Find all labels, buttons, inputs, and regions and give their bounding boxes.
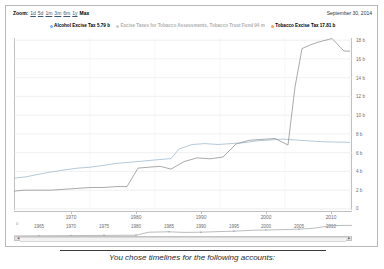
range-button-5d[interactable]: 5d [38, 10, 44, 16]
legend-item-tobacco-trust-fund[interactable]: Excise Taxes for Tobacco Assessments, To… [116, 22, 265, 30]
y-tick-label: 0 [356, 206, 359, 211]
chart-container: Zoom:1d5d1m3m6m1yMax September 30, 2014 … [5, 5, 378, 247]
legend-label: Alcohol Excise Tax 5.79 b [54, 23, 110, 28]
navigator-scrollbar[interactable]: ◀ ▶ [14, 236, 352, 241]
scrollbar-right-arrow-icon[interactable]: ▶ [346, 237, 351, 240]
y-tick-label: 16 b [356, 57, 365, 62]
plot-area [14, 38, 352, 210]
chart-legend: Alcohol Excise Tax 5.79 b Excise Taxes f… [6, 22, 379, 32]
y-tick-label: 12 b [356, 94, 365, 99]
x-tick-label: 1980 [131, 215, 142, 221]
range-button-6m[interactable]: 6m [63, 10, 70, 16]
x-tick [201, 211, 202, 214]
x-tick-label: 2000 [261, 215, 272, 221]
series-canvas [14, 38, 352, 210]
x-tick-label: 1990 [196, 215, 207, 221]
x-axis-line [14, 211, 352, 212]
y-tick-label: 2 b [356, 188, 362, 193]
x-tick-label: 2010 [326, 215, 337, 221]
legend-label: Excise Taxes for Tobacco Assessments, To… [120, 23, 264, 28]
y-tick-label: 8 b [356, 132, 362, 137]
legend-marker-icon [50, 25, 53, 28]
x-tick [266, 211, 267, 214]
series-line-tobacco-excise-tax [14, 39, 350, 192]
caption-divider [60, 250, 326, 251]
range-selector-label: Zoom: [13, 10, 28, 16]
y-tick-label: 10 b [356, 113, 365, 118]
legend-item-tobacco-excise-tax[interactable]: Tobacco Excise Tax 17.81 b [271, 22, 336, 30]
range-button-max[interactable]: Max [80, 10, 90, 16]
chart-topbar: Zoom:1d5d1m3m6m1yMax September 30, 2014 [6, 9, 379, 20]
navigator[interactable]: 0 1965 1970 1975 1980 1985 1990 1995 200… [14, 224, 352, 242]
x-tick [136, 211, 137, 214]
x-tick-label: 1970 [66, 215, 77, 221]
y-axis: 18 b 16 b 14 b 12 b 10 b 8 b 6 b 4 b 2 b… [354, 38, 384, 210]
gridlines [14, 38, 352, 210]
scrollbar-thumb[interactable] [20, 237, 346, 242]
y-tick-label: 18 b [356, 38, 365, 43]
x-tick [331, 211, 332, 214]
range-button-1d[interactable]: 1d [30, 10, 36, 16]
y-tick-label: 6 b [356, 151, 362, 156]
page-caption: You chose timelines for the following ac… [0, 252, 384, 263]
range-selector: Zoom:1d5d1m3m6m1yMax [13, 9, 89, 17]
series-line-alcohol-excise-tax [14, 139, 350, 178]
range-button-1y[interactable]: 1y [72, 10, 77, 16]
x-tick [71, 211, 72, 214]
range-button-1m[interactable]: 1m [45, 10, 52, 16]
y-tick-label: 4 b [356, 169, 362, 174]
chart-page: Zoom:1d5d1m3m6m1yMax September 30, 2014 … [0, 0, 384, 269]
legend-marker-icon [116, 25, 119, 28]
range-date-label: September 30, 2014 [327, 9, 372, 17]
y-tick-label: 14 b [356, 76, 365, 81]
range-button-3m[interactable]: 3m [54, 10, 61, 16]
legend-label: Tobacco Excise Tax 17.81 b [275, 23, 335, 28]
legend-item-alcohol-excise-tax[interactable]: Alcohol Excise Tax 5.79 b [50, 22, 110, 30]
x-axis: 1970 1980 1990 2000 2010 [14, 211, 352, 223]
legend-marker-icon [271, 25, 274, 28]
